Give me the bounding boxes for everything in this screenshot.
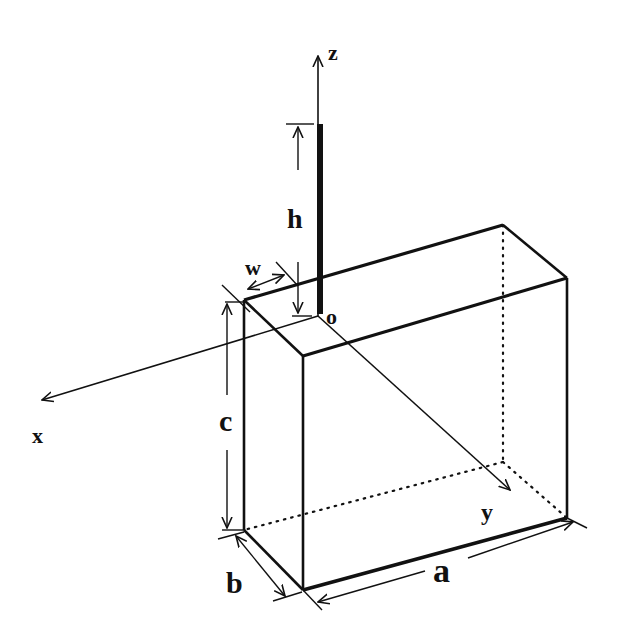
origin-label: o (326, 304, 337, 329)
dimension-h-label: h (287, 203, 303, 234)
y-axis-label: y (481, 499, 493, 525)
box-antenna-diagram: z x y o h w c b a (0, 0, 617, 638)
hidden-edges (244, 225, 567, 530)
axes (42, 56, 510, 490)
dimension-b-label: b (226, 566, 243, 599)
dimension-a-label: a (433, 552, 450, 589)
x-axis-label: x (32, 423, 43, 448)
y-axis (318, 316, 510, 490)
dimension-w-label: w (245, 255, 261, 280)
z-axis-label: z (328, 40, 338, 65)
x-axis (42, 316, 318, 400)
dimension-c-label: c (219, 404, 232, 437)
